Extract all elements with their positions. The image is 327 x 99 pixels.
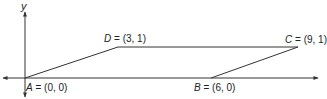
y-axis-label: y <box>21 1 27 12</box>
point-label-c: C = (9, 1) <box>285 35 327 45</box>
point-label-b: B = (6, 0) <box>194 83 235 93</box>
point-coords-a: = (0, 0) <box>33 82 68 93</box>
edge-a-d <box>25 47 118 78</box>
point-name-a: A <box>26 82 33 93</box>
edge-c-b <box>211 47 298 78</box>
point-label-d: D = (3, 1) <box>104 34 146 44</box>
point-coords-b: = (6, 0) <box>201 82 236 93</box>
point-coords-d: = (3, 1) <box>111 33 146 44</box>
point-coords-c: = (9, 1) <box>292 34 327 45</box>
point-name-b: B <box>194 82 201 93</box>
point-label-a: A = (0, 0) <box>26 83 67 93</box>
